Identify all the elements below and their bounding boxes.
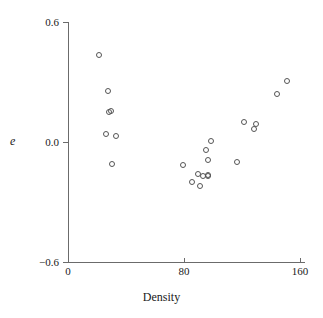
scatter-point (189, 179, 195, 185)
scatter-point (203, 147, 209, 153)
scatter-point (251, 126, 257, 132)
scatter-point (205, 172, 211, 178)
scatter-points-layer (0, 0, 323, 318)
scatter-plot-figure: 0.6 0.0 −0.6 0 80 160 e Density (0, 0, 323, 318)
scatter-point (205, 157, 211, 163)
scatter-point (234, 159, 240, 165)
scatter-point (208, 138, 214, 144)
scatter-point (284, 78, 290, 84)
scatter-point (113, 133, 119, 139)
scatter-point (109, 161, 115, 167)
scatter-point (96, 52, 102, 58)
scatter-point (105, 88, 111, 94)
scatter-point (180, 162, 186, 168)
scatter-point (274, 91, 280, 97)
scatter-point (108, 108, 114, 114)
scatter-point (241, 119, 247, 125)
scatter-point (103, 131, 109, 137)
scatter-point (197, 183, 203, 189)
